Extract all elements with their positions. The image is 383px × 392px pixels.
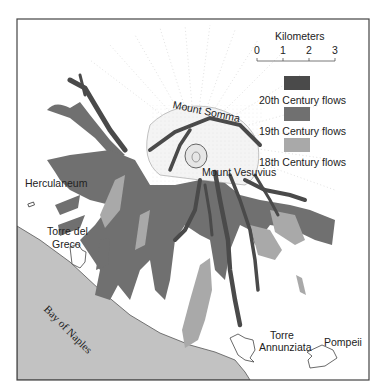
scale-tick-1: 1 xyxy=(280,44,286,56)
label-mount-vesuvius: Mount Vesuvius xyxy=(202,167,276,179)
label-torre-del-greco-1: Torre del xyxy=(47,226,88,238)
scale-tick-3: 3 xyxy=(332,44,338,56)
scale-tick-2: 2 xyxy=(306,44,312,56)
vesuvius-map: Kilometers 0 1 2 3 20th Century flows 19… xyxy=(0,0,383,392)
crater xyxy=(185,144,207,168)
map-canvas xyxy=(0,0,383,392)
label-herculaneum: Herculaneum xyxy=(25,178,87,190)
legend-label-19th: 19th Century flows xyxy=(259,125,346,137)
scale-tick-0: 0 xyxy=(254,44,260,56)
legend-swatch-18th xyxy=(284,138,310,152)
label-torre-annunziata-2: Annunziata xyxy=(259,342,312,354)
label-torre-del-greco-2: Greco xyxy=(52,239,81,251)
legend-swatch-19th xyxy=(284,107,310,121)
label-pompeii: Pompeii xyxy=(324,337,362,349)
label-torre-annunziata-1: Torre xyxy=(270,330,294,342)
legend-swatch-20th xyxy=(284,76,310,90)
scale-title: Kilometers xyxy=(275,30,325,42)
legend-label-20th: 20th Century flows xyxy=(259,94,346,106)
